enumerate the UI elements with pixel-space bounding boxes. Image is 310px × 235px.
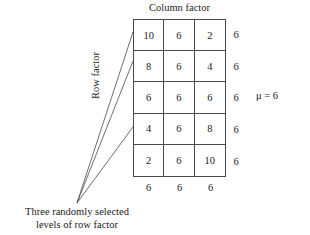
- grid-cell: 6: [164, 51, 194, 82]
- caption-line-1: Three randomly selected: [2, 206, 152, 219]
- two-factor-means-diagram: Column factor Row factor 10 6 2 8 6 4 6 …: [0, 0, 310, 235]
- row-margin-mean: 6: [228, 51, 244, 83]
- row-margin-mean: 6: [228, 145, 244, 177]
- grid-cell: 6: [164, 145, 194, 176]
- grid-cell: 2: [134, 145, 164, 176]
- row-margin-mean: 6: [228, 114, 244, 146]
- row-margin-mean: 6: [228, 82, 244, 114]
- caption-line-2: levels of row factor: [2, 219, 152, 232]
- column-margin-mean: 6: [164, 180, 195, 194]
- row-factor-label: Row factor: [90, 43, 101, 109]
- grid-cell: 4: [195, 51, 225, 82]
- grid-cell: 8: [134, 51, 164, 82]
- grid-cell: 4: [134, 114, 164, 145]
- grid-cell: 10: [134, 20, 164, 51]
- grid-cell: 6: [195, 82, 225, 113]
- grid-cell: 6: [134, 82, 164, 113]
- grid-cell: 6: [164, 20, 194, 51]
- caption: Three randomly selected levels of row fa…: [2, 206, 152, 231]
- grid-cell: 6: [164, 114, 194, 145]
- means-grid: 10 6 2 8 6 4 6 6 6 4 6 8 2 6 10: [133, 19, 226, 177]
- grid-cell: 10: [195, 145, 225, 176]
- row-margin-mean: 6: [228, 19, 244, 51]
- grid-cell: 8: [195, 114, 225, 145]
- column-margin-mean: 6: [195, 180, 226, 194]
- column-margin-mean: 6: [133, 180, 164, 194]
- grid-cell: 6: [164, 82, 194, 113]
- column-factor-label: Column factor: [133, 2, 226, 13]
- grid-cell: 2: [195, 20, 225, 51]
- grand-mean-annotation: μ = 6: [256, 90, 278, 101]
